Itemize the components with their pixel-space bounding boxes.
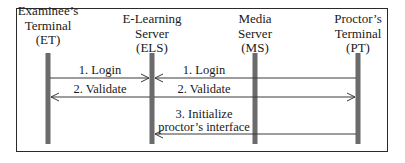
lifeline-pt	[356, 53, 361, 144]
lifeline-et	[46, 53, 51, 144]
lifeline-ms	[253, 53, 258, 144]
message-label-line2: proctor’s interface	[158, 121, 250, 134]
message-label-validate-2: 2. Validate	[177, 83, 230, 96]
message-label-initialize: 3. Initialize proctor’s interface	[158, 108, 250, 134]
message-label-login-2: 1. Login	[183, 64, 225, 77]
message-label-validate-1: 2. Validate	[73, 83, 126, 96]
lifeline-els	[150, 53, 155, 144]
message-label-login-1: 1. Login	[79, 64, 121, 77]
